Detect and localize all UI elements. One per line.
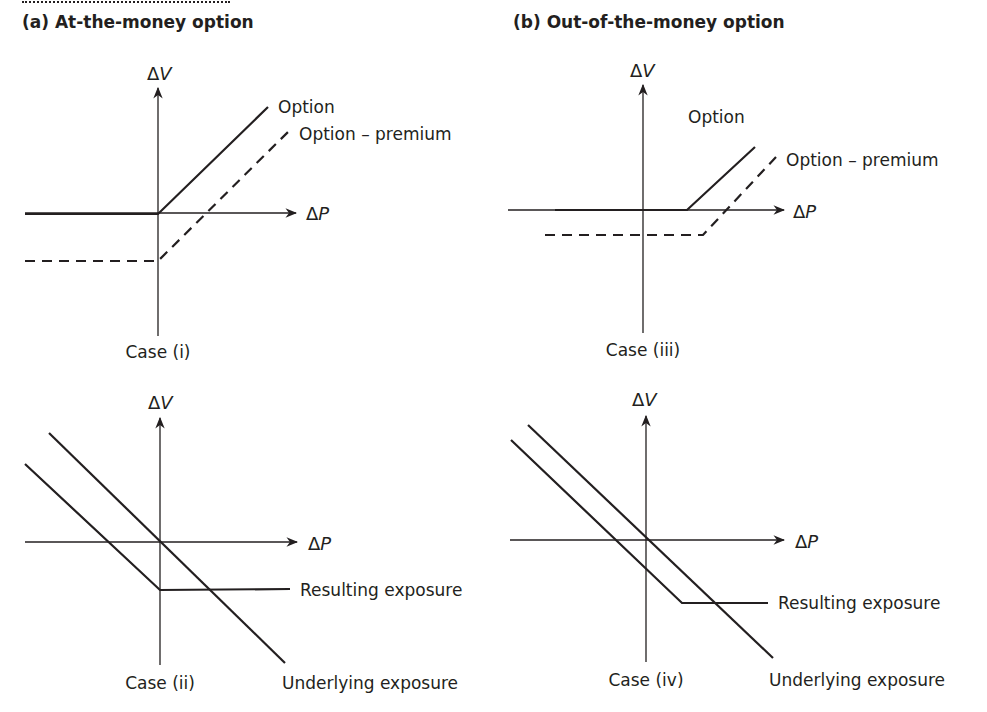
option-payoff-line bbox=[555, 147, 755, 210]
option-label: Option bbox=[688, 107, 745, 127]
x-axis-label: ΔP bbox=[308, 533, 331, 554]
case-iii-caption: Case (iii) bbox=[606, 340, 680, 360]
underlying-exposure-line bbox=[49, 433, 285, 663]
option-minus-premium-line bbox=[545, 157, 776, 235]
case-iv-caption: Case (iv) bbox=[608, 670, 683, 690]
resulting-exposure-label: Resulting exposure bbox=[300, 580, 462, 600]
x-axis-label: ΔP bbox=[306, 203, 329, 224]
underlying-exposure-label: Underlying exposure bbox=[282, 673, 458, 693]
case-iv-diagram: ΔV ΔP Resulting exposure Case (iv) Under… bbox=[510, 389, 945, 690]
resulting-exposure-line bbox=[511, 440, 768, 603]
case-i-caption: Case (i) bbox=[126, 342, 191, 362]
y-axis-label: ΔV bbox=[147, 63, 173, 84]
case-ii-caption: Case (ii) bbox=[125, 673, 195, 693]
resulting-exposure-label: Resulting exposure bbox=[778, 593, 940, 613]
option-premium-label: Option – premium bbox=[299, 124, 452, 144]
resulting-exposure-line bbox=[25, 464, 290, 590]
x-axis-label: ΔP bbox=[793, 201, 816, 222]
case-iii-diagram: ΔV ΔP Option Option – premium Case (iii) bbox=[508, 60, 939, 360]
option-minus-premium-line bbox=[25, 132, 288, 261]
y-axis-label: ΔV bbox=[632, 389, 658, 410]
option-payoff-line bbox=[25, 107, 268, 214]
y-axis-label: ΔV bbox=[630, 60, 656, 81]
underlying-exposure-label: Underlying exposure bbox=[769, 670, 945, 690]
x-axis-label: ΔP bbox=[795, 531, 818, 552]
underlying-exposure-line bbox=[528, 425, 773, 658]
case-i-diagram: ΔV ΔP Option Option – premium Case (i) bbox=[25, 63, 452, 362]
option-premium-label: Option – premium bbox=[786, 150, 939, 170]
case-ii-diagram: ΔV ΔP Resulting exposure Case (ii) Under… bbox=[25, 392, 462, 693]
payoff-diagrams: ΔV ΔP Option Option – premium Case (i) Δ… bbox=[0, 0, 987, 712]
option-label: Option bbox=[278, 97, 335, 117]
y-axis-label: ΔV bbox=[148, 392, 174, 413]
